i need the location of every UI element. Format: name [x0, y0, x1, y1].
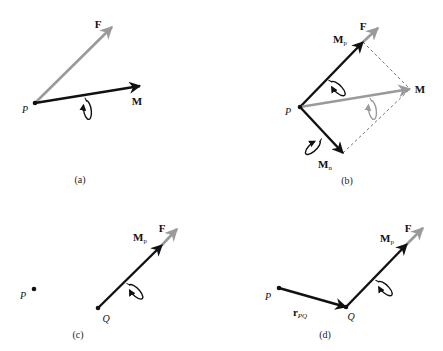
point-p-label: P — [22, 105, 28, 115]
point-p-d — [277, 286, 282, 291]
point-q-d — [344, 305, 349, 310]
point-p-b — [298, 105, 303, 110]
vector-mn-label: Mn — [318, 159, 332, 172]
vector-mp-c — [98, 245, 162, 308]
vector-rpq-d — [279, 288, 346, 307]
points — [32, 101, 349, 311]
moment-curls — [82, 77, 395, 301]
panel-caption-c: (c) — [72, 330, 83, 340]
moment-curl-icon — [367, 97, 378, 120]
panel-caption-d: (d) — [319, 330, 331, 340]
vector-m-label: M — [415, 84, 425, 95]
point-p-label: P — [20, 291, 26, 301]
vector-m-label: M — [132, 96, 142, 107]
moment-curl-icon — [124, 280, 145, 301]
vector-f-label: F — [95, 19, 102, 30]
dashed-line — [363, 42, 410, 89]
point-p-label: P — [265, 292, 271, 302]
point-q-c — [96, 306, 101, 311]
point-q-label: Q — [102, 314, 109, 324]
point-p-c — [32, 287, 37, 292]
vector-rpq-label: rPQ — [293, 307, 307, 320]
panel-caption-a: (a) — [74, 175, 85, 185]
vector-f-label: F — [360, 21, 367, 32]
moment-curl-icon — [82, 97, 93, 120]
vector-mn-b — [300, 107, 343, 153]
vector-mp-d — [346, 244, 407, 307]
vector-mp-label: Mp — [133, 232, 147, 245]
vector-mp-label: Mp — [333, 34, 347, 47]
moment-curl-icon — [326, 77, 347, 98]
point-p-label: P — [285, 107, 291, 117]
vector-mp-label: Mp — [380, 233, 394, 246]
point-p-a — [33, 101, 38, 106]
vector-f-label: F — [405, 223, 412, 234]
point-q-label: Q — [347, 312, 354, 322]
moment-curl-icon — [303, 136, 324, 157]
vector-f-label: F — [159, 223, 166, 234]
moment-curl-icon — [373, 277, 394, 298]
panel-caption-b: (b) — [341, 176, 353, 186]
force-moment-figure — [0, 0, 443, 351]
vectors — [35, 27, 423, 308]
